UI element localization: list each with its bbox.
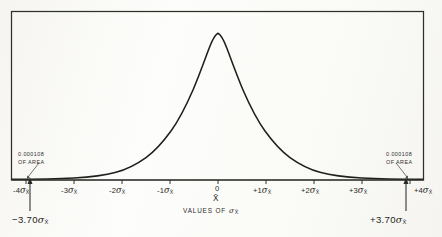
left-area-callout-line2: OF AREA (18, 158, 45, 166)
tick-label-minus-4-sigma-sub: X̄ (26, 189, 30, 195)
tick-label-plus-1-sigma: +1σX̄ (253, 186, 271, 195)
tick-label-plus-4-sigma: +4σX̄ (414, 186, 432, 195)
tick-label-minus-1-sigma: -1σX̄ (157, 186, 173, 195)
tick-label-plus-4-sigma-value: +4 (414, 186, 423, 195)
tick-label-minus-2-sigma: -2σX̄ (109, 186, 125, 195)
right-area-callout-line1: 0.000108 (386, 150, 413, 158)
tick-label-plus-1-sigma-value: +1 (253, 186, 262, 195)
right-sigma-marker-value: +3.70 (370, 214, 396, 225)
tick-label-minus-2-sigma-value: -2 (109, 186, 116, 195)
plot-canvas: .frame { fill: none; stroke: #30302b; st… (0, 0, 442, 237)
normal-distribution-figure: .frame { fill: none; stroke: #30302b; st… (0, 0, 442, 237)
left-sigma-marker-label: −3.70σX̄ (12, 215, 48, 226)
tick-label-plus-4-sigma-sub: X̄ (429, 189, 433, 195)
tick-label-minus-1-sigma-sub: X̄ (170, 189, 174, 195)
left-sigma-marker-value: −3.70 (12, 214, 38, 225)
tick-label-minus-3-sigma-value: -3 (61, 186, 68, 195)
tick-label-plus-3-sigma-value: +3 (349, 186, 358, 195)
tick-label-plus-2-sigma-sub: X̄ (316, 189, 320, 195)
gaussian-curve (12, 33, 423, 179)
right-area-callout: 0.000108 OF AREA (386, 150, 413, 166)
left-sigma-marker-sub: X̄ (44, 219, 48, 225)
origin-zero-label: 0 (215, 185, 219, 193)
tick-label-minus-1-sigma-value: -1 (157, 186, 164, 195)
tick-label-minus-2-sigma-sub: X̄ (122, 189, 126, 195)
origin-xbar-label: X̄ (213, 195, 218, 203)
right-sigma-marker-arrow (404, 178, 409, 212)
tick-label-minus-4-sigma-value: -4 (13, 186, 20, 195)
tick-label-minus-3-sigma-sub: X̄ (74, 189, 78, 195)
left-area-callout: 0.000108 OF AREA (18, 150, 45, 166)
right-sigma-marker-sub: X̄ (402, 219, 406, 225)
figure-border (12, 12, 424, 181)
tick-label-minus-3-sigma: -3σX̄ (61, 186, 77, 195)
tick-label-plus-2-sigma-value: +2 (301, 186, 310, 195)
tick-label-minus-4-sigma: -4σX̄ (13, 186, 29, 195)
tick-label-plus-1-sigma-sub: X̄ (268, 189, 272, 195)
right-area-callout-line2: OF AREA (386, 158, 413, 166)
tick-label-plus-2-sigma: +2σX̄ (301, 186, 319, 195)
x-axis-title-text: VALUES OF (183, 207, 226, 214)
tick-label-plus-3-sigma-sub: X̄ (364, 189, 368, 195)
right-sigma-marker-label: +3.70σX̄ (370, 215, 406, 226)
tick-label-plus-3-sigma: +3σX̄ (349, 186, 367, 195)
left-area-callout-line1: 0.000108 (18, 150, 45, 158)
x-axis-title: VALUES OFσX̄ (183, 207, 238, 215)
x-axis-title-sub: X̄ (235, 209, 239, 215)
